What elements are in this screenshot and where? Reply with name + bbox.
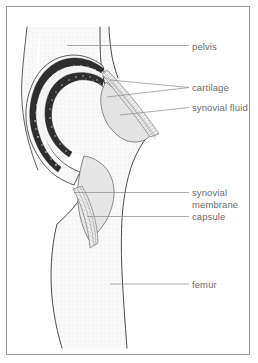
label-synovial-membrane: synovial membrane [192,187,238,210]
label-synovial-fluid: synovial fluid [192,102,248,114]
label-cartilage: cartilage [192,82,229,94]
label-femur: femur [192,279,217,291]
label-pelvis: pelvis [192,41,217,53]
label-synovial-membrane-line1: synovial [192,187,227,198]
label-capsule: capsule [192,211,225,223]
hip-joint-illustration [0,0,258,363]
label-synovial-membrane-line2: membrane [192,199,238,210]
hip-joint-figure: pelvis cartilage synovial fluid synovial… [0,0,258,363]
